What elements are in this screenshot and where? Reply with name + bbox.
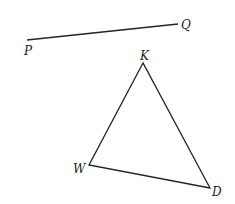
label-p: P: [23, 44, 33, 58]
label-q: Q: [181, 18, 191, 32]
segment-pq: [27, 24, 178, 40]
geometry-diagram: P Q K W D: [0, 0, 235, 204]
label-d: D: [211, 185, 222, 199]
label-k: K: [139, 49, 150, 63]
triangle-kwd: [89, 63, 210, 188]
label-w: W: [73, 162, 87, 176]
